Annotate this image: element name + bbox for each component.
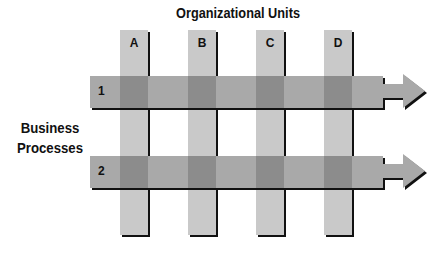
band-label: 1 bbox=[98, 84, 105, 98]
arrow-right-icon bbox=[381, 70, 431, 114]
side-label-line-1: Business bbox=[15, 118, 85, 138]
column-label: C bbox=[256, 36, 284, 50]
arrow-right-icon bbox=[381, 150, 431, 194]
org-unit-column-b: B bbox=[188, 30, 216, 235]
band-label: 2 bbox=[98, 164, 105, 178]
intersection-2c bbox=[256, 156, 284, 188]
column-label: D bbox=[324, 36, 352, 50]
column-label: A bbox=[120, 36, 148, 50]
business-processes-label: Business Processes bbox=[15, 118, 85, 158]
column-label: B bbox=[188, 36, 216, 50]
org-unit-column-a: A bbox=[120, 30, 148, 235]
intersection-2a bbox=[120, 156, 148, 188]
intersection-1b bbox=[188, 76, 216, 108]
intersection-1c bbox=[256, 76, 284, 108]
org-unit-column-d: D bbox=[324, 30, 352, 235]
intersection-2d bbox=[324, 156, 352, 188]
diagram-title: Organizational Units bbox=[48, 4, 429, 21]
side-label-line-2: Processes bbox=[15, 138, 85, 158]
intersection-1d bbox=[324, 76, 352, 108]
org-unit-column-c: C bbox=[256, 30, 284, 235]
intersection-1a bbox=[120, 76, 148, 108]
intersection-2b bbox=[188, 156, 216, 188]
